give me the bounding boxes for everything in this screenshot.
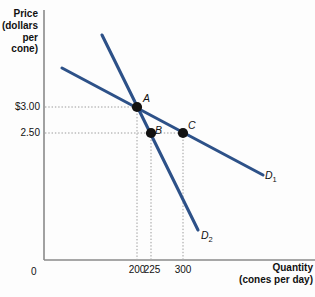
y-tick-label-250: 2.50: [0, 127, 40, 139]
curve-label-d2-text: D: [201, 229, 209, 241]
data-point-a: [132, 102, 142, 112]
x-tick-label-225: 225: [137, 264, 167, 276]
curve-label-d2: D2: [201, 229, 213, 245]
data-point-c: [178, 128, 188, 138]
demand-curve-figure: Price (dollars per cone) Quantity (cones…: [0, 0, 315, 297]
y-axis-title: Price (dollars per cone): [0, 8, 38, 55]
chart-plot-area: [0, 0, 315, 297]
point-label-c: C: [188, 119, 196, 131]
curve-label-d1-text: D: [265, 169, 273, 181]
point-label-b: B: [155, 124, 162, 136]
point-label-a: A: [143, 92, 150, 104]
curve-label-d1-subscript: 1: [273, 175, 277, 184]
origin-label: 0: [31, 266, 37, 278]
curve-label-d1: D1: [265, 169, 277, 185]
curve-label-d2-subscript: 2: [209, 235, 213, 244]
x-tick-label-300: 300: [168, 264, 198, 276]
y-tick-label-300: $3.00: [0, 101, 40, 113]
x-axis-title: Quantity (cones per day): [195, 262, 313, 286]
